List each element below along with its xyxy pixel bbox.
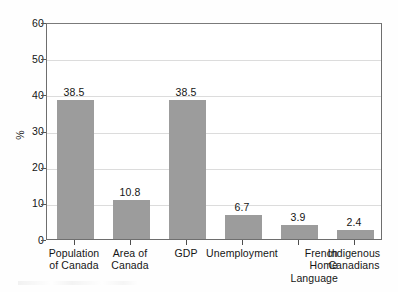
x-tick-label-line: Language [258, 272, 338, 284]
x-tick-mark [74, 240, 75, 245]
bar [57, 100, 94, 239]
gridline [47, 60, 381, 61]
bar-chart: % 6050403020100 38.510.838.56.73.92.4 Po… [0, 0, 398, 292]
x-tick-label-line: Canada [90, 259, 170, 271]
scan-artifact [18, 281, 138, 285]
bar [113, 200, 150, 239]
bar-value-label: 2.4 [326, 217, 382, 228]
bar [169, 100, 206, 239]
x-tick-mark [354, 240, 355, 245]
bar-value-label: 38.5 [46, 87, 102, 98]
x-tick-mark [186, 240, 187, 245]
x-tick-label-line: Canadians [314, 259, 394, 271]
bar-value-label: 3.9 [270, 212, 326, 223]
x-tick-mark [130, 240, 131, 245]
x-tick-mark [242, 240, 243, 245]
bar [337, 230, 374, 239]
x-tick-mark [298, 240, 299, 245]
bar [225, 215, 262, 239]
x-tick-label-line: Indigenous [314, 247, 394, 259]
x-tick-label: IndigenousCanadians [314, 247, 394, 272]
y-tick-mark [41, 240, 46, 241]
gridline [47, 169, 381, 170]
bar-value-label: 38.5 [158, 87, 214, 98]
gridline [47, 133, 381, 134]
bar-value-label: 10.8 [102, 187, 158, 198]
bar [281, 225, 318, 239]
bar-value-label: 6.7 [214, 202, 270, 213]
y-axis-title: % [14, 126, 26, 144]
